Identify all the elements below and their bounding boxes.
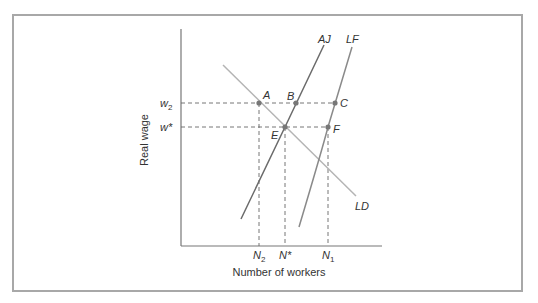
label-B: B	[287, 90, 294, 102]
label-A: A	[262, 89, 270, 101]
curve-AJ	[241, 45, 324, 219]
ytick-w2: w2	[160, 97, 173, 112]
point-A	[256, 100, 261, 105]
label-E: E	[271, 129, 279, 141]
label-LD: LD	[355, 200, 369, 212]
label-F: F	[333, 123, 341, 135]
label-AJ: AJ	[317, 33, 331, 45]
point-F	[325, 124, 330, 129]
label-LF: LF	[346, 33, 360, 45]
curve-LF	[299, 47, 352, 227]
xtick-N1: N1	[322, 249, 335, 264]
ytick-wstar: w*	[160, 121, 173, 133]
point-E	[282, 124, 287, 129]
xtick-Nstar: N*	[279, 249, 292, 261]
label-C: C	[340, 97, 348, 109]
xtick-N2: N2	[253, 249, 266, 264]
point-C	[332, 100, 337, 105]
x-axis-title: Number of workers	[233, 266, 326, 278]
labor-market-diagram: A B C E F AJ LF LD w2 w* N2 N* N1 Number…	[0, 0, 538, 303]
y-axis-title: Real wage	[138, 114, 150, 166]
